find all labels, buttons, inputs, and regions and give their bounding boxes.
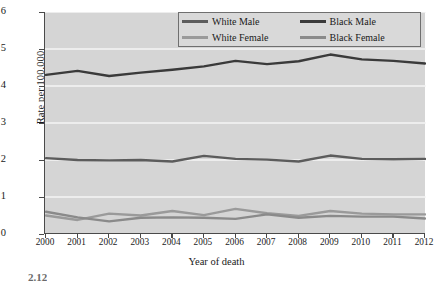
y-tick-label: 3 — [0, 117, 6, 128]
x-axis-title: Year of death — [0, 256, 433, 267]
legend-swatch — [300, 36, 326, 39]
x-tick-mark — [392, 234, 393, 238]
y-tick-label: 1 — [0, 191, 6, 202]
y-tick-label: 0 — [0, 228, 6, 239]
x-tick-label: 2009 — [312, 238, 346, 247]
legend-label: Black Male — [330, 16, 376, 27]
x-tick-mark — [361, 234, 362, 238]
x-tick-label: 2005 — [186, 238, 220, 247]
x-tick-label: 2006 — [218, 238, 252, 247]
x-tick-label: 2004 — [154, 238, 188, 247]
legend-label: White Female — [212, 32, 268, 43]
series-line-black-male — [46, 55, 425, 76]
x-tick-label: 2011 — [375, 238, 409, 247]
x-tick-label: 2000 — [28, 238, 62, 247]
page-number-fragment: 2.12 — [28, 272, 47, 281]
x-tick-mark — [329, 234, 330, 238]
x-tick-label: 2001 — [60, 238, 94, 247]
legend-swatch — [182, 36, 208, 39]
y-tick-label: 2 — [0, 154, 6, 165]
chart-legend: White MaleBlack MaleWhite FemaleBlack Fe… — [178, 12, 421, 47]
x-tick-mark — [424, 234, 425, 238]
legend-item-white-female: White Female — [182, 32, 300, 43]
y-tick-label: 4 — [0, 80, 6, 91]
x-tick-label: 2008 — [281, 238, 315, 247]
legend-item-white-male: White Male — [182, 16, 300, 27]
x-tick-label: 2012 — [407, 238, 438, 247]
x-tick-mark — [235, 234, 236, 238]
y-tick-label: 5 — [0, 43, 6, 54]
x-tick-mark — [298, 234, 299, 238]
x-tick-mark — [45, 234, 46, 238]
y-tick-label: 6 — [0, 6, 6, 17]
x-tick-mark — [171, 234, 172, 238]
x-tick-label: 2010 — [344, 238, 378, 247]
legend-label: Black Female — [330, 32, 385, 43]
x-tick-mark — [203, 234, 204, 238]
legend-label: White Male — [212, 16, 259, 27]
x-tick-mark — [77, 234, 78, 238]
x-tick-mark — [266, 234, 267, 238]
x-tick-label: 2003 — [123, 238, 157, 247]
x-tick-mark — [108, 234, 109, 238]
legend-item-black-male: Black Male — [300, 16, 418, 27]
x-tick-label: 2007 — [249, 238, 283, 247]
x-tick-label: 2002 — [91, 238, 125, 247]
legend-item-black-female: Black Female — [300, 32, 418, 43]
legend-swatch — [182, 20, 208, 23]
legend-swatch — [300, 20, 326, 23]
y-tick-mark — [39, 234, 44, 235]
x-tick-mark — [140, 234, 141, 238]
